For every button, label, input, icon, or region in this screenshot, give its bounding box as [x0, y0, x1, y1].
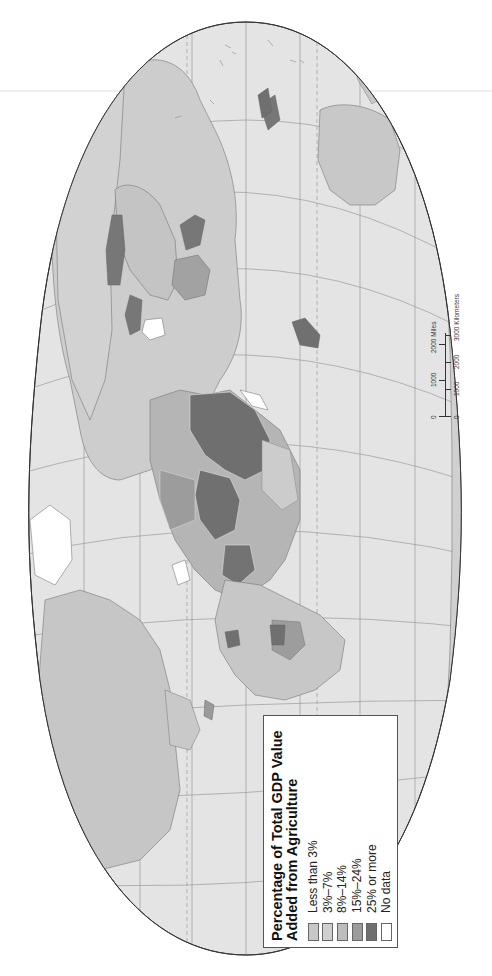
guyana-dark: [225, 630, 240, 648]
legend-label: 8%–14%: [335, 865, 349, 913]
legend-label: 25% or more: [365, 844, 379, 913]
legend-swatch: [352, 923, 363, 941]
scale-label-km: 1000: [453, 382, 460, 396]
scale-label-miles: 0: [430, 415, 437, 419]
legend-label: Less than 3%: [306, 840, 320, 913]
legend: Percentage of Total GDP Value Added from…: [263, 715, 398, 948]
australia: [318, 105, 400, 205]
legend-swatch: [366, 923, 377, 941]
world-map: [0, 0, 492, 976]
legend-swatch: [322, 923, 333, 941]
legend-label: No data: [379, 871, 393, 913]
scale-label-miles: 2000 Miles: [430, 322, 437, 353]
legend-item: Less than 3%: [306, 724, 321, 941]
scale-label-km: 0: [453, 415, 460, 419]
scale-tick: [445, 389, 451, 390]
scale-line: [445, 333, 446, 417]
scale-label-km: 2000: [453, 355, 460, 369]
legend-item: 15%–24%: [350, 724, 365, 941]
paraguay-dark: [270, 625, 285, 645]
legend-content: Percentage of Total GDP Value Added from…: [264, 716, 399, 949]
scale-tick: [439, 344, 445, 345]
legend-swatch: [381, 923, 392, 941]
scale-label-km: 3000 Kilometers: [453, 294, 460, 341]
legend-item: 8%–14%: [335, 724, 350, 941]
scale-tick: [445, 362, 451, 363]
scale-bar-content: 0 1000 2000 Miles 0 1000 2000 3000 Kilom…: [418, 285, 478, 425]
scale-bar: 0 1000 2000 Miles 0 1000 2000 3000 Kilom…: [418, 285, 478, 425]
legend-label: 15%–24%: [350, 858, 364, 913]
legend-title: Percentage of Total GDP Value Added from…: [270, 724, 300, 941]
legend-item: 3%–7%: [321, 724, 336, 941]
scale-tick: [439, 380, 445, 381]
legend-swatch: [337, 923, 348, 941]
legend-swatch: [308, 923, 319, 941]
legend-item: 25% or more: [364, 724, 379, 941]
legend-title-line2: Added from Agriculture: [285, 724, 300, 941]
legend-title-line1: Percentage of Total GDP Value: [270, 724, 285, 941]
scale-tick: [445, 335, 451, 336]
legend-item: No data: [379, 724, 394, 941]
legend-label: 3%–7%: [321, 872, 335, 913]
scale-label-miles: 1000: [430, 373, 437, 387]
scale-tick: [445, 416, 451, 417]
